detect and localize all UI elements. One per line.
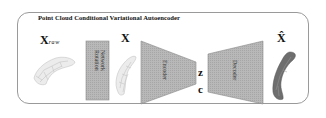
encoder-block: Encoder	[141, 41, 196, 104]
encoder-label: Encoder	[162, 60, 168, 80]
reconstructed-point-cloud-icon	[273, 52, 296, 100]
rotation-network-label-line2: Network	[100, 50, 106, 71]
rotated-point-cloud-icon	[116, 56, 136, 95]
diagram-canvas: Rotation Network Encoder Decoder	[0, 0, 326, 118]
decoder-block: Decoder	[208, 41, 263, 104]
rotation-network-label-line1: Rotation	[94, 50, 100, 71]
rotation-network-block: Rotation Network	[86, 41, 109, 100]
decoder-label: Decoder	[232, 60, 238, 80]
raw-point-cloud-icon	[34, 57, 75, 85]
